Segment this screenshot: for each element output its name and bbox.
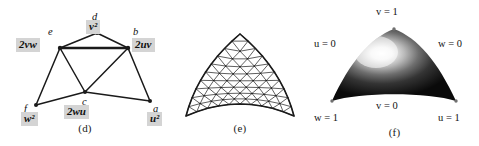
vertex-dot-c	[83, 90, 87, 94]
mesh-edge	[240, 87, 246, 93]
mesh-edge	[283, 107, 291, 112]
mesh-edge	[259, 81, 266, 88]
mesh-edge	[216, 93, 228, 94]
mesh-edge	[200, 96, 204, 104]
mesh-edge	[192, 96, 204, 98]
edge-c-f	[36, 92, 85, 105]
mesh-edge	[227, 81, 234, 87]
bary-label-v1: v = 1	[376, 6, 398, 17]
mesh-edge	[233, 74, 240, 81]
mesh-edge	[246, 93, 252, 98]
dome-shadow-overlay	[354, 36, 398, 68]
mesh-edge	[223, 100, 229, 105]
mesh-edge	[234, 87, 240, 93]
mesh-edge	[264, 94, 269, 101]
edge-e-f	[36, 48, 60, 105]
mesh-edge	[206, 72, 220, 73]
mesh-edge	[276, 96, 288, 98]
edge-e-c	[60, 48, 85, 92]
mesh-edge	[264, 94, 276, 95]
mesh-edge	[189, 107, 197, 112]
mesh-edge	[276, 96, 280, 104]
mesh-edge	[196, 89, 204, 96]
mesh-edge	[223, 99, 234, 100]
mesh-edge	[271, 88, 276, 96]
mesh-edge	[204, 96, 211, 102]
mesh-edge	[233, 51, 240, 59]
mesh-edge	[209, 81, 214, 88]
panel-d-caption: (d)	[0, 122, 170, 134]
panel-d-labeled-graph: d v² e 2vw b 2uv c 2wu f w² a u² (d)	[0, 0, 170, 146]
mesh-edge	[225, 48, 241, 51]
mesh-edge	[192, 98, 200, 104]
mesh-edge	[234, 93, 240, 99]
mesh-edge	[204, 88, 209, 96]
bary-label-v0: v = 0	[376, 100, 398, 111]
bary-label-u0: u = 0	[314, 38, 336, 49]
mesh-edge	[254, 66, 260, 73]
edge-d-b	[97, 33, 128, 48]
mesh-edge	[212, 100, 223, 102]
mesh-edge	[233, 67, 240, 74]
mesh-edge	[271, 88, 284, 89]
mesh-edge	[216, 94, 223, 99]
mesh-edge	[252, 93, 264, 94]
mesh-edge	[247, 74, 253, 81]
mesh-edge	[261, 64, 269, 73]
mesh-edge	[252, 88, 259, 94]
mesh-edge	[246, 81, 253, 87]
mesh-edge	[228, 87, 234, 93]
mesh-edge	[206, 72, 214, 81]
mesh-edge	[262, 101, 269, 106]
mesh-edge	[211, 64, 219, 73]
edge-b-c	[85, 48, 128, 92]
panel-e-caption: (e)	[170, 122, 310, 134]
mesh-edge	[214, 73, 220, 80]
mesh-edge	[271, 80, 279, 88]
corner-dot-left	[330, 99, 333, 102]
vertex-dot-b	[126, 46, 130, 50]
mesh-edge	[240, 59, 247, 67]
mesh-edge	[252, 93, 257, 99]
mesh-edge	[240, 93, 246, 99]
panel-e-wireframe-mesh: (e)	[170, 0, 310, 146]
mesh-edge	[240, 51, 247, 59]
figure-container: d v² e 2vw b 2uv c 2wu f w² a u² (d) (e)	[0, 0, 479, 146]
mesh-edge	[246, 87, 252, 93]
mesh-edge	[240, 74, 247, 81]
mesh-edge	[219, 73, 233, 74]
mesh-edge	[268, 101, 279, 103]
vertex-weight-e: 2vw	[16, 38, 40, 52]
bary-label-w0: w = 0	[438, 38, 462, 49]
mesh-edge	[247, 66, 254, 74]
mesh-edge	[200, 101, 211, 103]
mesh-edge	[266, 81, 271, 88]
mesh-edge	[212, 94, 217, 101]
mesh-edge	[226, 66, 233, 74]
mesh-edge	[240, 48, 256, 51]
mesh-edge	[209, 88, 216, 94]
vertex-dot-e	[58, 46, 62, 50]
mesh-edge	[240, 66, 254, 67]
edge-b-a	[128, 48, 150, 101]
mesh-edge	[257, 100, 268, 102]
vertex-name-b: b	[133, 26, 138, 37]
mesh-edge	[251, 100, 257, 105]
mesh-edge	[234, 81, 240, 87]
mesh-edge	[200, 104, 207, 109]
mesh-edge	[196, 88, 209, 89]
mesh-edge	[228, 93, 234, 98]
shaded-dome-svg	[310, 0, 479, 146]
mesh-edge	[276, 89, 284, 96]
mesh-edge	[234, 99, 240, 104]
mesh-edge	[216, 88, 221, 95]
mesh-edge	[209, 88, 222, 89]
mesh-edge	[240, 99, 246, 104]
mesh-edge	[257, 94, 264, 99]
mesh-edge	[280, 98, 288, 104]
mesh-silhouette	[186, 34, 294, 116]
mesh-edge	[219, 73, 226, 80]
corner-dot-right	[454, 99, 457, 102]
mesh-edge	[204, 94, 216, 95]
mesh-edge	[261, 72, 275, 73]
